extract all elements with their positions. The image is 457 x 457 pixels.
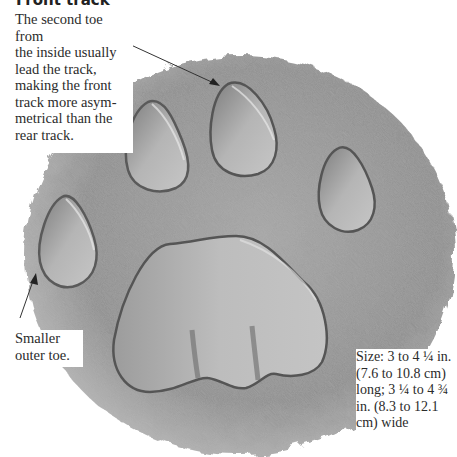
- annotation-outer-toe: Smaller outer toe.: [15, 330, 83, 367]
- figure-title: Front track: [16, 0, 110, 9]
- paw-track-figure: Front track The second toe from the insi…: [0, 0, 457, 457]
- annotation-leading-toe: The second toe from the inside usually l…: [15, 9, 133, 153]
- annotation-size: Size: 3 to 4 ¼ in. (7.6 to 10.8 cm) long…: [356, 349, 457, 432]
